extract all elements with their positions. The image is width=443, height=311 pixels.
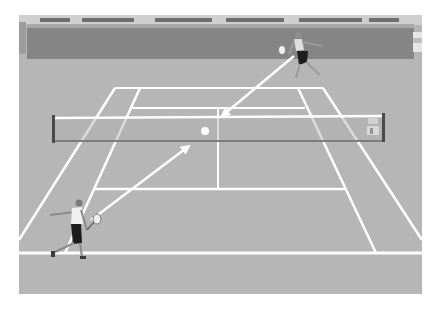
- back-wall-top: [27, 24, 414, 28]
- near-player-racket: [93, 214, 101, 224]
- right-net-post: [382, 113, 385, 142]
- tennis-court-scene: [0, 0, 443, 311]
- near-player-shirt: [71, 207, 83, 224]
- scoreboard-stripe: [413, 38, 422, 43]
- left-net-post: [52, 115, 55, 143]
- far-player-head: [295, 32, 301, 38]
- near-player-head: [76, 200, 83, 207]
- tennis-ball: [201, 127, 209, 135]
- far-ball: [279, 46, 285, 54]
- court-image: [19, 15, 422, 294]
- back-wall: [27, 28, 414, 59]
- net: [52, 113, 385, 143]
- left-wall-edge: [19, 22, 26, 54]
- net-judge-chair: [367, 118, 379, 135]
